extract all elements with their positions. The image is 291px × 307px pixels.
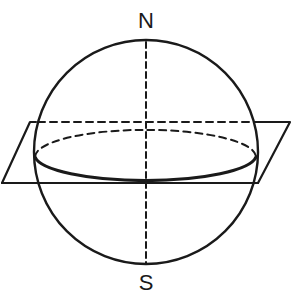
south-pole-label: S bbox=[139, 272, 154, 294]
north-pole-label: N bbox=[138, 10, 154, 32]
sphere-diagram bbox=[0, 0, 291, 307]
diagram-canvas: N S bbox=[0, 0, 291, 307]
